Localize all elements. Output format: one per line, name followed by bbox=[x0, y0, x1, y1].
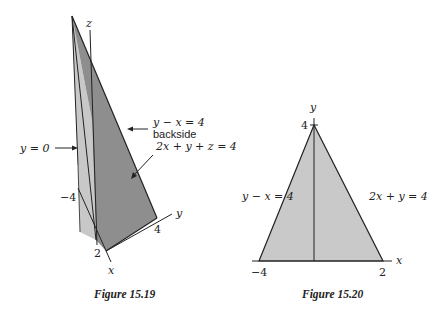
x-tick-2-2d: 2 bbox=[379, 266, 386, 279]
x-tick-neg4: −4 bbox=[60, 191, 76, 204]
caption-figure-15-20: Figure 15.20 bbox=[301, 288, 364, 301]
label-2x-plus-y-4-2d: 2x + y = 4 bbox=[368, 190, 428, 203]
x-axis-label-2d: x bbox=[396, 254, 403, 267]
x-tick-2: 2 bbox=[94, 247, 101, 260]
arrow-2x-y-z-4 bbox=[134, 155, 153, 175]
arrowhead-y-minus-x-4 bbox=[127, 127, 133, 132]
x-tick-neg4-2d: −4 bbox=[251, 266, 267, 279]
x-axis-label: x bbox=[108, 264, 115, 277]
figure-15-19: z −4 2 x 4 y y = 0 y − x = 4 backside 2x… bbox=[19, 16, 237, 301]
caption-figure-15-19: Figure 15.19 bbox=[93, 288, 156, 301]
y-tick-4: 4 bbox=[154, 223, 161, 236]
label-2x-y-z-4: 2x + y + z = 4 bbox=[155, 140, 237, 153]
figure-15-20: x y 4 −4 2 y − x = 4 2x + y = 4 Figure 1… bbox=[241, 101, 428, 301]
z-axis-label: z bbox=[85, 17, 92, 30]
figure-canvas: z −4 2 x 4 y y = 0 y − x = 4 backside 2x… bbox=[0, 0, 443, 309]
y-axis-label: y bbox=[175, 207, 183, 220]
y-axis-label-2d: y bbox=[309, 101, 317, 114]
label-backside: backside bbox=[153, 128, 196, 140]
label-y-minus-x-4-2d: y − x = 4 bbox=[241, 190, 294, 203]
y-tick-4-2d: 4 bbox=[301, 119, 308, 132]
label-y-equals-0: y = 0 bbox=[19, 142, 49, 155]
